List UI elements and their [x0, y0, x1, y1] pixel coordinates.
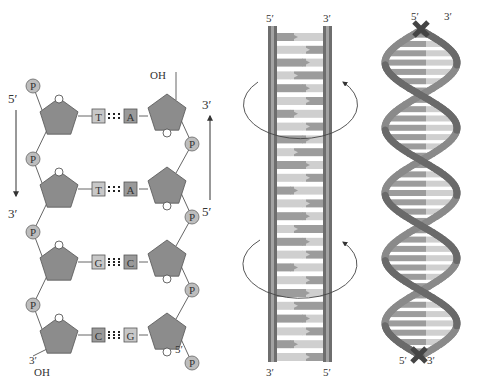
right-top-3prime-label: 3′	[202, 97, 212, 112]
hydrogen-bond-dot	[108, 190, 110, 192]
ladder-bottom-3prime-label: 3′	[266, 366, 274, 378]
rung-half-left	[277, 327, 306, 335]
helix-rung	[385, 190, 426, 196]
chemical-structure-panel: TATAGCCGPPPPPPPP 5′ 3′ 3′ 5′ OH 3′ OH 5′	[8, 69, 212, 378]
base-letter-left: C	[95, 330, 102, 342]
helix-rung	[426, 255, 457, 261]
hydrogen-bond-dot	[108, 258, 110, 260]
rung-half-right	[294, 302, 323, 310]
helix-rung	[426, 320, 457, 326]
nucleotide-shapes: TATAGCCGPPPPPPPP	[26, 79, 199, 370]
base-letter-right: G	[127, 330, 135, 342]
hydrogen-bond-dot	[113, 261, 115, 263]
deoxyribose-sugar-right	[148, 167, 186, 203]
base-letter-left: T	[95, 111, 102, 123]
helix-rung	[426, 60, 457, 66]
base-letter-left: G	[95, 257, 103, 269]
phosphate-label: P	[30, 153, 36, 165]
rung-half-left	[277, 59, 306, 67]
rung-half-left	[277, 84, 306, 92]
ladder-top-5prime-label: 5′	[266, 12, 274, 24]
ring-oxygen	[55, 168, 63, 176]
rung-half-left	[277, 97, 306, 105]
hydrogen-bond-dot	[113, 113, 115, 115]
hydrogen-bond-dot	[108, 186, 110, 188]
left-strand-direction: 5′ 3′	[8, 91, 18, 221]
rung-half-right	[294, 33, 323, 41]
rung-half-left	[277, 238, 306, 246]
hydrogen-bond-dot	[118, 337, 120, 339]
hydrogen-bond-dot	[108, 113, 110, 115]
right-backbone	[323, 26, 332, 362]
ladder-panel: 5′ 3′ 3′ 5′	[243, 12, 358, 378]
rung-half-right	[294, 148, 323, 156]
hydrogen-bond-dot	[113, 190, 115, 192]
hydrogen-bond-dot	[118, 334, 120, 336]
helix-rung	[385, 255, 426, 261]
hydrogen-bond-dot	[108, 261, 110, 263]
rung-half-left	[277, 289, 306, 297]
hydrogen-bond-dot	[113, 264, 115, 266]
helix-rung	[385, 60, 426, 66]
rung-half-left	[277, 123, 306, 131]
helix-top-3prime-label: 3′	[444, 10, 452, 22]
rung-half-right	[294, 187, 323, 195]
helix-rung	[426, 125, 457, 131]
hydrogen-bond-dot	[108, 264, 110, 266]
hydrogen-bond-dot	[118, 113, 120, 115]
phosphate-label: P	[189, 138, 195, 150]
hydrogen-bond-dot	[118, 331, 120, 333]
rung-half-right	[294, 71, 323, 79]
ring-oxygen	[163, 275, 171, 283]
deoxyribose-sugar-left	[40, 244, 78, 280]
hydrogen-bond-dot	[118, 117, 120, 119]
ladder-bottom-5prime-label: 5′	[323, 366, 331, 378]
helix-bottom-3prime-label: 3′	[427, 354, 435, 366]
hydrogen-bond-dot	[113, 186, 115, 188]
rung-half-left	[277, 161, 306, 169]
right-strand-direction: 3′ 5′	[202, 97, 212, 219]
hydrogen-bond-dot	[108, 334, 110, 336]
phosphate-label: P	[30, 299, 36, 311]
deoxyribose-sugar-left	[40, 98, 78, 134]
rung-half-right	[294, 225, 323, 233]
deoxyribose-sugar-right	[148, 94, 186, 130]
rung-half-left	[277, 174, 306, 182]
hydrogen-bond-dot	[118, 261, 120, 263]
hydrogen-bond-dot	[118, 186, 120, 188]
rung-half-right	[294, 110, 323, 118]
helix-rung	[385, 125, 426, 131]
phosphate-label: P	[30, 226, 36, 238]
rung-half-left	[277, 199, 306, 207]
rung-half-left	[277, 212, 306, 220]
rung-half-left	[277, 353, 306, 361]
phosphate-label: P	[189, 357, 195, 369]
hydrogen-bond-dot	[108, 337, 110, 339]
hydrogen-bond-dot	[118, 190, 120, 192]
phosphate-label: P	[189, 284, 195, 296]
rung-half-left	[277, 46, 306, 54]
base-letter-left: T	[95, 184, 102, 196]
base-letter-right: A	[127, 184, 135, 196]
rung-half-left	[277, 276, 306, 284]
left-top-5prime-label: 5′	[8, 91, 18, 106]
rung-half-left	[277, 315, 306, 323]
ring-oxygen	[55, 95, 63, 103]
deoxyribose-sugar-left	[40, 317, 78, 353]
bottom-oh-label: OH	[34, 366, 50, 378]
helix-bottom-5prime-label: 5′	[399, 354, 407, 366]
bottom-3prime-label: 3′	[29, 354, 37, 366]
hydrogen-bond-dot	[113, 117, 115, 119]
right-bottom-5prime-label: 5′	[202, 204, 212, 219]
deoxyribose-sugar-right	[148, 240, 186, 276]
hydrogen-bond-dot	[113, 258, 115, 260]
hydrogen-bond-dot	[108, 331, 110, 333]
ring-oxygen	[163, 202, 171, 210]
phosphate-label: P	[189, 211, 195, 223]
top-oh-label: OH	[150, 69, 166, 81]
ring-oxygen	[55, 241, 63, 249]
hydrogen-bond-dot	[118, 258, 120, 260]
hydrogen-bond-dot	[118, 264, 120, 266]
left-backbone	[268, 26, 277, 362]
ring-oxygen	[163, 348, 171, 356]
